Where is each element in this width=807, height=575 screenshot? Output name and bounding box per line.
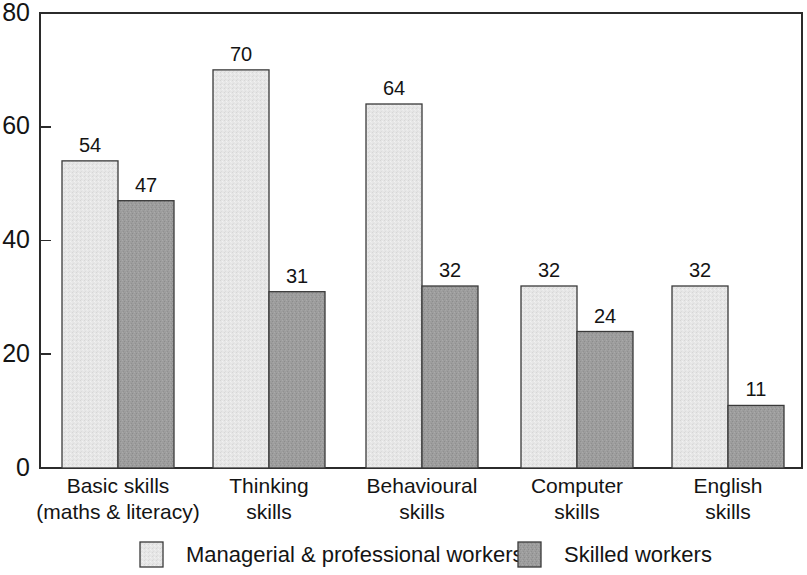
y-tick-label: 60	[2, 111, 30, 139]
bar-value-label: 11	[746, 378, 767, 400]
y-tick-label: 20	[2, 339, 30, 367]
legend-label: Skilled workers	[564, 542, 712, 567]
bar[interactable]	[577, 332, 633, 469]
bar[interactable]	[366, 104, 422, 468]
legend-swatch[interactable]	[140, 542, 163, 567]
category-label: Thinking	[229, 474, 308, 497]
category-label: English	[694, 474, 763, 497]
category-labels-group: Basic skills(maths & literacy)Thinkingsk…	[36, 474, 762, 523]
bar-value-label: 32	[439, 259, 461, 281]
category-label: Behavioural	[367, 474, 478, 497]
y-axis-tick-labels: 020406080	[2, 0, 30, 481]
category-label: skills	[705, 500, 751, 523]
category-label: skills	[554, 500, 600, 523]
legend-label: Managerial & professional workers	[186, 542, 524, 567]
bar-value-label: 31	[286, 265, 308, 287]
bar-value-label: 24	[594, 305, 616, 327]
bar[interactable]	[269, 292, 325, 468]
chart-container: 020406080 54706432324731322411 Basic ski…	[0, 0, 807, 575]
bar[interactable]	[118, 201, 174, 468]
bar-value-label: 54	[79, 134, 101, 156]
bar[interactable]	[521, 286, 577, 468]
bar[interactable]	[213, 70, 269, 468]
category-label: Basic skills	[67, 474, 170, 497]
category-label: (maths & literacy)	[36, 500, 199, 523]
bar[interactable]	[422, 286, 478, 468]
bar[interactable]	[62, 161, 118, 468]
bars-group	[62, 70, 784, 468]
bar[interactable]	[672, 286, 728, 468]
category-label: skills	[246, 500, 292, 523]
bar-value-label: 64	[383, 77, 405, 99]
bar-value-label: 47	[135, 174, 157, 196]
bar-chart: 020406080 54706432324731322411 Basic ski…	[0, 0, 807, 575]
bar-value-label: 32	[538, 259, 560, 281]
y-axis-ticks	[40, 127, 51, 355]
bar-value-label: 70	[230, 43, 252, 65]
y-tick-label: 40	[2, 225, 30, 253]
legend: Managerial & professional workersSkilled…	[140, 542, 712, 567]
bar[interactable]	[728, 405, 784, 468]
y-tick-label: 0	[16, 453, 30, 481]
category-label: Computer	[531, 474, 623, 497]
legend-swatch[interactable]	[518, 542, 541, 567]
category-label: skills	[399, 500, 445, 523]
bar-value-label: 32	[689, 259, 711, 281]
y-tick-label: 80	[2, 0, 30, 26]
